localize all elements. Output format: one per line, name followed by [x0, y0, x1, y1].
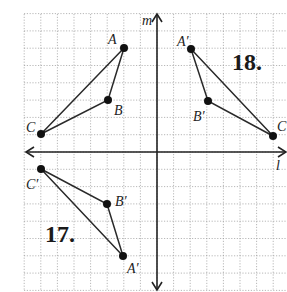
triangle-reflection-m: A′ B′ C 18. — [176, 34, 287, 140]
point-b — [104, 96, 112, 104]
problem-number-17: 17. — [45, 221, 75, 247]
axis-label-l: l — [276, 158, 280, 173]
label-a-prime: A′ — [126, 261, 140, 276]
problem-number-18: 18. — [232, 49, 262, 75]
label-b-prime: B′ — [115, 194, 128, 209]
point-c — [269, 132, 277, 140]
point-b-prime — [103, 200, 111, 208]
point-c — [37, 130, 45, 138]
label-a-prime: A′ — [176, 34, 190, 49]
label-c-prime: C′ — [26, 177, 39, 192]
axis-l — [26, 147, 286, 157]
axis-label-m: m — [142, 13, 152, 28]
point-b-prime — [204, 97, 212, 105]
point-c-prime — [37, 165, 45, 173]
coordinate-grid-figure: m l A B C A′ B′ C 18. C′ B′ A′ 17. — [0, 0, 287, 292]
point-a-prime — [119, 252, 127, 260]
label-c: C — [277, 119, 287, 134]
label-a: A — [107, 32, 117, 47]
label-b: B — [114, 103, 123, 118]
label-b-prime: B′ — [193, 109, 206, 124]
triangle-reflection-l: C′ B′ A′ 17. — [26, 165, 140, 276]
point-a — [120, 44, 128, 52]
label-c: C — [26, 120, 36, 135]
